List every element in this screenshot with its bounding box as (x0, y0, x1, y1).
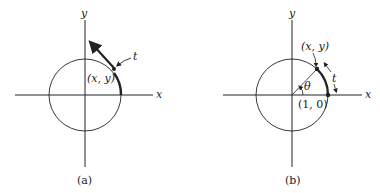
point-xy (315, 67, 319, 71)
panel-b: y x (x, y) t θ (1, 0) (b) (223, 7, 372, 187)
t-leader-arrow (118, 58, 131, 65)
angle-label-theta: θ (304, 80, 311, 93)
x-axis-label: x (365, 88, 372, 101)
origin-point-label: (1, 0) (298, 98, 328, 111)
y-axis-label: y (288, 7, 296, 20)
theta-arc (300, 87, 303, 95)
y-axis-label: y (80, 7, 88, 20)
point-label: (x, y) (301, 40, 329, 53)
caption-a: (a) (77, 174, 92, 187)
arc-t (317, 69, 328, 95)
point-1-0 (326, 93, 330, 97)
x-axis-label: x (156, 88, 163, 101)
arc-label-t: t (133, 50, 138, 63)
t-arrow-down (334, 84, 336, 91)
arc-label-t: t (332, 72, 337, 85)
xy-leader-arrow (313, 53, 316, 65)
caption-b: (b) (285, 174, 301, 187)
point-xy (112, 67, 116, 71)
point-label: (x, y) (87, 72, 115, 85)
panel-a: y x t (x, y) (a) (15, 7, 163, 187)
t-arrow-up (325, 64, 331, 72)
arc-t (114, 73, 121, 95)
unit-circle-figure: y x t (x, y) (a) y x (x, y) t θ (1, 0) (… (0, 0, 380, 193)
